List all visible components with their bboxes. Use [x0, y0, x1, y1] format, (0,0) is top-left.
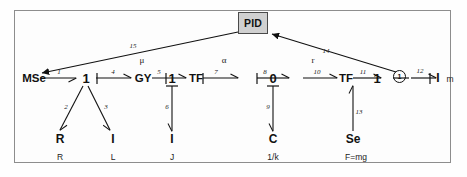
bond-number-7: 7 [214, 68, 218, 76]
bond-number-11: 11 [360, 68, 366, 76]
bond-number-3: 3 [104, 103, 108, 111]
node-mse[interactable]: MSe [22, 72, 46, 84]
element-I-J[interactable]: I [170, 132, 173, 146]
bond-number-14: 14 [323, 47, 330, 55]
element-I-L[interactable]: I [111, 132, 114, 146]
node-junction1-c[interactable]: 1 [373, 71, 380, 86]
element-C[interactable]: C [269, 132, 278, 146]
node-gyrator[interactable]: GY [135, 72, 152, 84]
element-Se[interactable]: Se [346, 132, 361, 146]
bond-number-6: 6 [165, 103, 169, 111]
node-inertia-right[interactable]: I [436, 71, 439, 85]
bond-graph-figure: PID 1 MSe 1 GY 1 TF 0 TF 1 I m μ α r R R… [0, 0, 467, 177]
bond-lines-layer [0, 0, 467, 177]
bond-14-line [272, 34, 396, 72]
bond-number-2: 2 [64, 103, 68, 111]
inertia-right-param: m [446, 74, 453, 84]
bond-number-9: 9 [266, 103, 270, 111]
summing-junction-circle[interactable]: 1 [393, 70, 406, 83]
node-junction1-b[interactable]: 1 [168, 71, 175, 86]
bond-number-13: 13 [356, 108, 363, 116]
bond-15-line [42, 32, 238, 73]
node-transformer-b[interactable]: TF [339, 72, 353, 84]
bond-number-4: 4 [111, 68, 115, 76]
node-junction1-a[interactable]: 1 [82, 71, 89, 86]
node-transformer-a[interactable]: TF [189, 72, 203, 84]
bond-number-5: 5 [157, 68, 161, 76]
bond-number-10: 10 [314, 68, 321, 76]
element-R[interactable]: R [56, 132, 65, 146]
transformer-a-modulus-label: α [222, 55, 227, 65]
element-C-param: 1/k [267, 152, 278, 162]
bond-number-12: 12 [417, 67, 424, 75]
gyrator-modulus-label: μ [140, 55, 145, 65]
element-Se-param: F=mg [345, 152, 367, 162]
element-I-L-param: L [111, 152, 116, 162]
node-junction0[interactable]: 0 [269, 71, 276, 86]
element-R-param: R [57, 152, 63, 162]
element-I-J-param: J [170, 152, 174, 162]
bond-number-15: 15 [130, 42, 137, 50]
transformer-b-modulus-label: r [312, 55, 315, 65]
bond-number-8: 8 [263, 68, 267, 76]
bond-number-1: 1 [57, 68, 61, 76]
pid-controller-block[interactable]: PID [238, 12, 268, 34]
